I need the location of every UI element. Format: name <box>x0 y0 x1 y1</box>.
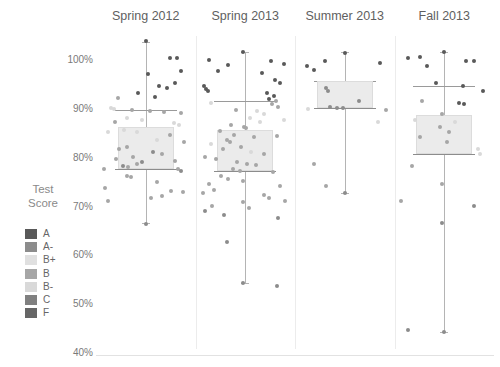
boxplot-figure: Test Score AA-B+BB-CF 100%90%80%70%60%50… <box>0 0 500 367</box>
y-axis-tick-label: 50% <box>73 298 93 309</box>
box <box>416 115 472 154</box>
data-point <box>228 140 232 144</box>
data-point <box>406 328 410 332</box>
data-point <box>254 163 258 167</box>
data-point <box>221 147 225 151</box>
data-point <box>177 123 181 127</box>
data-point <box>112 107 116 111</box>
data-point <box>262 112 266 116</box>
upper-hinge-line <box>115 110 177 111</box>
data-point <box>267 196 271 200</box>
data-point <box>203 155 207 159</box>
legend-item-label: B+ <box>43 255 56 265</box>
data-point <box>457 101 461 105</box>
data-point <box>413 118 417 122</box>
data-point <box>420 99 424 103</box>
data-point <box>453 120 457 124</box>
data-point <box>481 89 485 93</box>
data-point <box>234 108 238 112</box>
legend-item-label: B <box>43 269 50 279</box>
data-point <box>155 180 159 184</box>
data-point <box>399 199 403 203</box>
legend-item-label: B- <box>43 282 53 292</box>
data-point <box>146 72 150 76</box>
data-point <box>125 174 129 178</box>
data-point <box>103 186 107 190</box>
data-point <box>255 109 259 113</box>
data-point <box>461 84 465 88</box>
data-point <box>179 111 183 115</box>
data-point <box>343 51 347 55</box>
data-point <box>238 169 242 173</box>
panel-title: Spring 2013 <box>196 9 296 23</box>
data-point <box>241 200 245 204</box>
data-point <box>203 209 207 213</box>
panel-summer-2013: Summer 2013 <box>295 36 395 356</box>
whisker-line <box>345 52 346 194</box>
data-point <box>442 50 446 54</box>
data-point <box>241 179 245 183</box>
y-axis-tick-label: 90% <box>73 102 93 113</box>
data-point <box>135 162 139 166</box>
data-point <box>149 196 153 200</box>
data-point <box>209 101 213 105</box>
data-point <box>232 133 236 137</box>
data-point <box>207 182 211 186</box>
data-point <box>462 102 466 106</box>
panel-separator <box>196 36 197 349</box>
data-point <box>278 81 282 85</box>
data-point <box>410 164 414 168</box>
data-point <box>216 69 220 73</box>
y-axis-tick-label: 100% <box>67 54 93 65</box>
data-point <box>267 97 271 101</box>
data-point <box>282 62 286 66</box>
upper-hinge-line <box>214 101 276 102</box>
data-point <box>222 213 226 217</box>
y-axis: 100%90%80%70%60%50%40% <box>60 0 93 367</box>
data-point <box>384 108 388 112</box>
data-point <box>262 193 266 197</box>
data-point <box>173 159 177 163</box>
data-point <box>153 95 157 99</box>
data-point <box>328 105 332 109</box>
data-point <box>241 281 245 285</box>
data-point <box>447 130 451 134</box>
data-point <box>117 147 121 151</box>
data-point <box>305 64 309 68</box>
data-point <box>168 133 172 137</box>
panel-spring-2012: Spring 2012 <box>96 36 196 356</box>
data-point <box>209 142 213 146</box>
data-point <box>140 118 144 122</box>
data-point <box>442 330 446 334</box>
data-point <box>212 188 216 192</box>
data-point <box>324 184 328 188</box>
data-point <box>323 59 327 63</box>
y-axis-tick-label: 70% <box>73 200 93 211</box>
panel-title: Spring 2012 <box>96 9 196 23</box>
panel-separator <box>295 36 296 349</box>
data-point <box>162 110 166 114</box>
data-point <box>335 106 339 110</box>
data-point <box>476 147 480 151</box>
data-point <box>478 152 482 156</box>
data-point <box>244 126 248 130</box>
data-point <box>275 134 279 138</box>
data-point <box>231 167 235 171</box>
data-point <box>125 145 129 149</box>
data-point <box>181 190 185 194</box>
data-point <box>252 135 256 139</box>
data-point <box>125 116 129 120</box>
data-point <box>434 81 438 85</box>
data-point <box>248 116 252 120</box>
data-point <box>262 152 266 156</box>
data-point <box>207 58 211 62</box>
panel-separator <box>395 36 396 349</box>
data-point <box>472 204 476 208</box>
data-point <box>131 155 135 159</box>
data-point <box>165 86 169 90</box>
data-point <box>226 63 230 67</box>
legend-swatch-icon <box>25 229 37 239</box>
y-axis-tick-label: 60% <box>73 249 93 260</box>
data-point <box>282 118 286 122</box>
data-point <box>445 140 449 144</box>
